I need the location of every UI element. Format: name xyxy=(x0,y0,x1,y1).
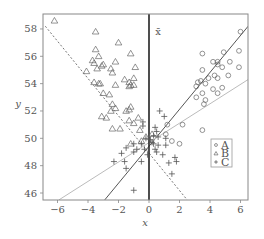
trend-dashed-line xyxy=(45,26,187,200)
circle-marker xyxy=(212,73,217,78)
triangle-marker xyxy=(112,82,119,88)
triangle-marker xyxy=(137,127,144,133)
plus-marker xyxy=(131,187,137,193)
y-tick-label: 48 xyxy=(24,160,37,171)
plus-marker xyxy=(169,171,175,177)
circle-marker xyxy=(200,51,205,56)
triangle-marker xyxy=(115,39,122,45)
plus-marker xyxy=(155,142,161,148)
x-tick-label: 0 xyxy=(146,204,152,215)
plot-frame xyxy=(43,14,248,200)
circle-marker xyxy=(203,81,208,86)
plus-marker xyxy=(152,124,158,130)
circle-marker xyxy=(237,65,242,70)
triangle-marker xyxy=(130,75,137,81)
x-tick-label: 4 xyxy=(207,204,213,215)
plus-marker xyxy=(161,113,167,119)
y-axis-ticks: 46485052545658 xyxy=(24,23,43,198)
legend-label: C xyxy=(221,156,229,169)
triangle-marker xyxy=(117,125,124,131)
plus-marker xyxy=(163,142,169,148)
circle-marker xyxy=(220,85,225,90)
triangle-marker xyxy=(51,17,58,23)
x-tick-label: 2 xyxy=(176,204,182,215)
y-tick-label: 56 xyxy=(24,51,37,62)
mean-annotation: x̄ xyxy=(155,26,161,37)
circle-marker xyxy=(194,95,199,100)
circle-marker xyxy=(202,102,207,107)
plus-marker xyxy=(123,165,129,171)
circle-marker xyxy=(221,50,226,55)
circle-marker xyxy=(215,76,220,81)
plus-marker xyxy=(154,128,160,134)
circle-marker xyxy=(206,76,211,81)
circle-marker xyxy=(169,139,174,144)
triangle-marker xyxy=(132,64,139,70)
x-tick-label: −4 xyxy=(81,204,96,215)
triangle-marker xyxy=(92,46,99,52)
plus-marker xyxy=(143,135,149,141)
y-tick-label: 46 xyxy=(24,188,37,199)
triangle-marker xyxy=(106,91,113,97)
circle-marker xyxy=(200,91,205,96)
triangle-marker xyxy=(92,28,99,34)
circle-marker xyxy=(220,65,225,70)
plus-marker xyxy=(157,108,163,114)
circle-marker xyxy=(237,48,242,53)
circle-marker xyxy=(211,87,216,92)
x-tick-label: 6 xyxy=(237,204,243,215)
circle-marker xyxy=(226,73,231,78)
triangle-marker xyxy=(127,50,134,56)
triangle-marker xyxy=(109,69,116,75)
legend: ABC xyxy=(211,139,232,169)
plus-marker xyxy=(166,160,172,166)
triangle-marker xyxy=(83,68,90,74)
triangle-marker xyxy=(109,125,116,131)
x-tick-label: −2 xyxy=(111,204,126,215)
scatter-chart: −6−4−20246 46485052545658 x y x̄ ABC xyxy=(0,0,264,239)
plus-marker xyxy=(151,141,157,147)
circle-marker xyxy=(227,59,232,64)
plus-marker xyxy=(154,149,160,155)
circle-marker xyxy=(215,91,220,96)
series-B xyxy=(51,17,155,146)
triangle-marker xyxy=(127,140,134,146)
triangle-marker xyxy=(95,53,102,59)
circle-marker xyxy=(211,59,216,64)
y-tick-label: 50 xyxy=(24,133,37,144)
y-axis-label: y xyxy=(14,98,21,109)
triangle-marker xyxy=(126,117,133,123)
y-tick-label: 52 xyxy=(24,105,37,116)
plus-marker xyxy=(152,146,158,152)
triangle-marker xyxy=(112,58,119,64)
plus-marker xyxy=(160,152,166,158)
plus-marker xyxy=(163,135,169,141)
triangle-marker xyxy=(121,76,128,82)
y-tick-label: 54 xyxy=(24,78,37,89)
plus-marker xyxy=(138,159,144,165)
circle-marker xyxy=(200,68,205,73)
y-tick-label: 58 xyxy=(24,23,37,34)
triangle-marker xyxy=(135,115,142,121)
circle-marker xyxy=(177,141,182,146)
x-axis-ticks: −6−4−20246 xyxy=(50,200,244,215)
x-tick-label: −6 xyxy=(50,204,65,215)
plus-marker xyxy=(173,159,179,165)
x-axis-label: x xyxy=(142,217,148,228)
plus-marker xyxy=(119,150,125,156)
circle-marker xyxy=(180,122,185,127)
plus-marker xyxy=(172,154,178,160)
trend-lines xyxy=(45,14,248,200)
circle-marker xyxy=(238,29,243,34)
circle-marker xyxy=(200,128,205,133)
triangle-marker xyxy=(123,108,130,114)
